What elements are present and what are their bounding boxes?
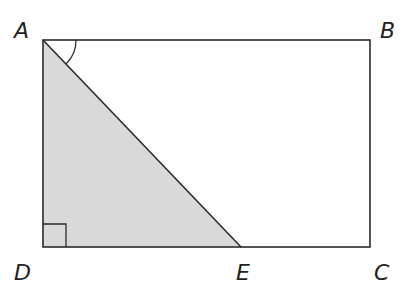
label-c: C (374, 260, 390, 285)
label-d: D (14, 260, 31, 285)
label-e: E (236, 260, 250, 285)
geometry-diagram: A B D E C (0, 0, 408, 298)
label-b: B (380, 18, 395, 43)
label-a: A (12, 18, 29, 43)
angle-arc-at-a (66, 40, 76, 64)
